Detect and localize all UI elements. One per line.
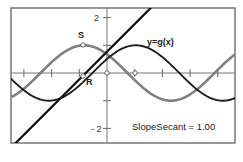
point-r-label: R xyxy=(86,77,93,87)
point-r[interactable] xyxy=(81,74,85,78)
graph-plot: 2 - 2 S R y=g(x) SlopeSecant = 1.00 xyxy=(0,0,243,162)
zero-point[interactable] xyxy=(133,71,137,75)
slope-secant-readout: SlopeSecant = 1.00 xyxy=(132,121,215,132)
y-tick-label-neg2: - 2 xyxy=(91,124,102,134)
curve-label: y=g(x) xyxy=(147,37,174,47)
origin-point[interactable] xyxy=(105,71,109,75)
y-tick-label-2: 2 xyxy=(94,13,99,23)
point-s[interactable] xyxy=(81,43,85,47)
point-s-label: S xyxy=(78,30,84,40)
